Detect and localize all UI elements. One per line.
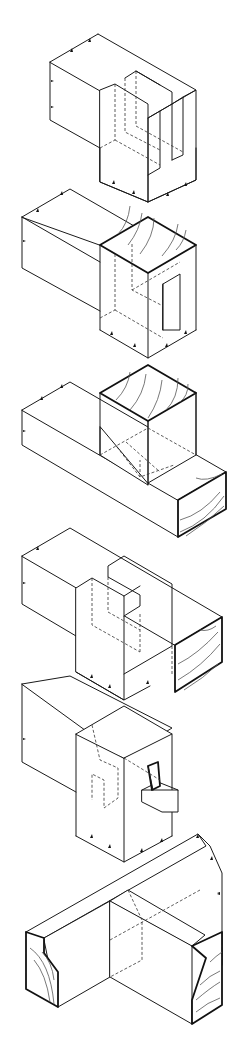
joint-4-t-bridle: [22, 528, 222, 700]
joint-1-bridle: [50, 34, 196, 202]
joinery-diagram: [0, 0, 246, 1060]
joint-2-corner-tenon: [22, 189, 196, 358]
joint-5-wedged-tenon: [22, 676, 178, 862]
joint-3-t-halving: [22, 365, 226, 537]
joinery-figures: [0, 0, 246, 1060]
